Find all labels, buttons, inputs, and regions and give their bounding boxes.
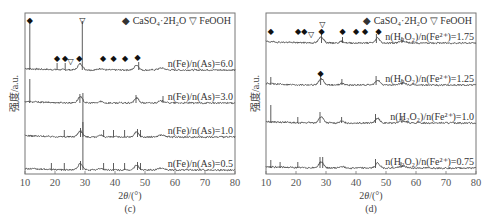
caso4-marker-icon: ◆ [339,27,346,36]
x-tick-label: 30 [321,177,332,188]
feooh-marker-icon: ▽ [79,16,86,25]
caso4-marker-icon: ◆ [54,54,61,63]
legend: ◆ CaSO₄·2H₂O ▽ FeOOH [122,15,231,26]
svg-text:◆ CaSO₄·2H₂O ▽ FeOOH: ◆ CaSO₄·2H₂O ▽ FeOOH [363,15,472,26]
caso4-marker-icon: ◆ [362,27,369,36]
x-axis-label: 2θ/(°) [359,190,382,202]
x-tick-label: 80 [471,177,482,188]
x-tick-label: 50 [381,177,392,188]
caso4-marker-icon: ◆ [27,16,34,25]
caso4-marker-icon: ◆ [353,27,360,36]
x-tick-label: 70 [200,177,211,188]
caso4-marker-icon: ◆ [268,27,275,36]
y-axis-label: 强度/a.u. [249,75,261,112]
curve-label: n(Fe)/n(As)=3.0 [168,91,233,103]
caso4-marker-icon: ◆ [134,53,141,62]
caso4-marker-icon: ◆ [100,54,107,63]
curve-label: n(Fe)/n(As)=6.0 [168,58,233,70]
x-axis-label: 2θ/(°) [118,190,141,202]
caso4-marker-icon: ◆ [76,54,83,63]
curve-label: n(Fe)/n(As)=1.0 [168,125,233,137]
caso4-marker-icon: ◆ [318,69,325,78]
curve-label: n(H₂O₂)/n(Fe²⁺)=1.25 [385,73,474,85]
x-tick-label: 20 [291,177,302,188]
caso4-marker-icon: ◆ [122,54,129,63]
caso4-marker-icon: ◆ [110,54,117,63]
legend: ◆ CaSO₄·2H₂O ▽ FeOOH [363,15,472,26]
panel-caption: (c) [124,203,135,215]
caso4-marker-icon: ◆ [375,27,382,36]
x-tick-label: 70 [441,177,452,188]
x-tick-label: 10 [20,177,31,188]
x-tick-label: 60 [170,177,181,188]
x-tick-label: 30 [80,177,91,188]
feooh-marker-icon: ▽ [308,30,315,39]
curve-label: n(Fe)/n(As)=0.5 [168,158,233,170]
curve-label: n(H₂O₂)/n(Fe²⁺)=1.0 [390,111,474,123]
panel-c: 10203040506070802θ/(°)(c)强度/a.u.◆ CaSO₄·… [8,13,240,215]
curve-label: n(H₂O₂)/n(Fe²⁺)=0.75 [385,156,474,168]
panel-d: 10203040506070802θ/(°)(d)强度/a.u.◆ CaSO₄·… [249,13,481,215]
x-tick-label: 10 [261,177,272,188]
x-tick-label: 50 [140,177,151,188]
x-tick-label: 80 [230,177,241,188]
feooh-marker-icon: ▽ [319,20,326,29]
x-tick-label: 60 [411,177,422,188]
x-tick-label: 40 [110,177,121,188]
curve-label: n(H₂O₂)/n(Fe²⁺)=1.75 [385,31,474,43]
y-axis-label: 强度/a.u. [8,75,20,112]
svg-text:◆ CaSO₄·2H₂O ▽ FeOOH: ◆ CaSO₄·2H₂O ▽ FeOOH [122,15,231,26]
xrd-figure: 10203040506070802θ/(°)(c)强度/a.u.◆ CaSO₄·… [0,0,489,222]
feooh-marker-icon: ▽ [68,57,75,66]
x-tick-label: 40 [351,177,362,188]
x-tick-label: 20 [50,177,61,188]
panel-caption: (d) [365,203,377,215]
